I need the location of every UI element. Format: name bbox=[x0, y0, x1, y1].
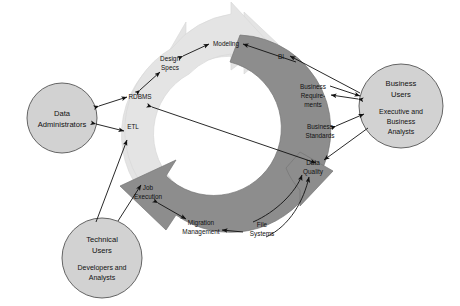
label-design-specs-line1: Design bbox=[160, 55, 180, 63]
node-title-technical-users-line1: Technical bbox=[86, 235, 118, 244]
lifecycle-diagram: Data Administrators Business Users Execu… bbox=[0, 0, 460, 306]
label-modeling: Modeling bbox=[213, 40, 239, 48]
connector-admins-rdbms bbox=[99, 97, 127, 106]
label-business-requirements-line3: ments bbox=[304, 101, 321, 108]
node-sub-technical-users-line1: Developers and bbox=[77, 264, 126, 272]
label-design-specs-line2: Specs bbox=[161, 64, 179, 72]
label-business-standards-line2: Standards bbox=[305, 132, 334, 139]
node-business-users[interactable]: Business Users Executive and Business An… bbox=[359, 64, 443, 148]
label-business-requirements-line1: Business bbox=[300, 83, 326, 90]
node-sub-technical-users-line2: Analysts bbox=[89, 274, 116, 282]
label-migration-management-line1: Migration bbox=[188, 219, 215, 227]
connector-admins-etl bbox=[96, 124, 124, 131]
connector-businessusers-requirements bbox=[331, 95, 358, 99]
label-job-execution-line1: Job bbox=[143, 184, 154, 191]
label-data-quality-line1: Data bbox=[306, 159, 320, 166]
node-sub-business-users-line3: Analysts bbox=[388, 128, 415, 136]
label-rdbms: RDBMS bbox=[128, 93, 151, 100]
node-title-business-users-line2: Users bbox=[391, 90, 411, 99]
label-job-execution-line2: Execution bbox=[134, 193, 163, 200]
connector-technicalusers-etl bbox=[96, 140, 127, 222]
label-data-quality-line2: Quality bbox=[303, 168, 324, 176]
label-etl: ETL bbox=[127, 123, 139, 130]
node-technical-users[interactable]: Technical Users Developers and Analysts bbox=[62, 218, 142, 298]
label-bi: BI bbox=[278, 53, 284, 60]
diagram-canvas: Data Administrators Business Users Execu… bbox=[0, 0, 460, 306]
node-subtitle-data-administrators: Administrators bbox=[38, 120, 87, 129]
node-sub-business-users-line1: Executive and bbox=[379, 108, 423, 115]
label-migration-management-line2: Management bbox=[182, 228, 220, 236]
node-title-data-administrators: Data bbox=[54, 109, 71, 118]
connector-standards-businessusers bbox=[336, 114, 364, 126]
label-file-systems-line1: File bbox=[257, 221, 268, 228]
label-file-systems-line2: Systems bbox=[250, 230, 275, 238]
node-sub-business-users-line2: Business bbox=[387, 118, 416, 125]
node-title-technical-users-line2: Users bbox=[92, 246, 112, 255]
label-business-standards-line1: Business bbox=[307, 123, 333, 130]
label-business-requirements-line2: Require- bbox=[301, 92, 326, 100]
node-data-administrators[interactable]: Data Administrators bbox=[27, 83, 97, 153]
node-title-business-users-line1: Business bbox=[386, 79, 417, 88]
